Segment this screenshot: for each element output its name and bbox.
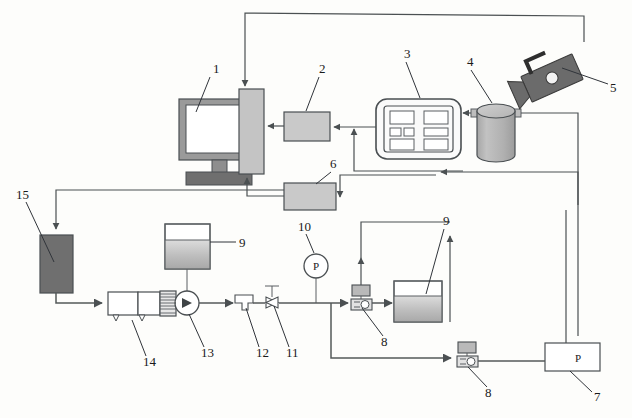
callout-8-lower: 8 [485, 385, 492, 400]
callout-14: 14 [143, 354, 157, 369]
process-flow-diagram: P P [0, 0, 632, 418]
callout-13: 13 [201, 345, 214, 360]
callout-9-left: 9 [239, 235, 246, 250]
callout-5: 5 [610, 80, 617, 95]
pressure-controller: P [545, 210, 600, 371]
callout-7: 7 [594, 389, 601, 404]
pump [175, 291, 199, 315]
callout-6: 6 [330, 156, 337, 171]
pressure-gauge-label: P [313, 260, 319, 272]
pressure-controller-label: P [575, 352, 581, 364]
callout-1: 1 [213, 61, 220, 76]
callout-12: 12 [256, 345, 269, 360]
callout-10: 10 [298, 219, 311, 234]
data-acquisition-unit [284, 183, 336, 210]
control-panel [376, 99, 461, 159]
callout-11: 11 [286, 345, 299, 360]
callout-4: 4 [467, 54, 474, 69]
callout-9-right: 9 [443, 213, 450, 228]
test-vessel [471, 104, 521, 162]
shutoff-valve [265, 286, 279, 308]
callout-3: 3 [404, 46, 411, 61]
inline-filter [235, 295, 253, 310]
reservoir-tank-right [394, 281, 442, 322]
pressure-gauge: P [304, 254, 328, 303]
process-piping [56, 186, 545, 361]
high-speed-camera [503, 43, 584, 109]
air-compressor [108, 291, 176, 321]
callout-8-upper: 8 [381, 334, 388, 349]
solenoid-valve-lower [457, 342, 478, 367]
solenoid-valve-upper [351, 285, 372, 310]
callout-15: 15 [16, 187, 29, 202]
computer-tower [239, 89, 264, 174]
schematic-canvas: P P [0, 0, 632, 418]
signal-conditioner [284, 112, 330, 141]
callout-2: 2 [319, 61, 326, 76]
